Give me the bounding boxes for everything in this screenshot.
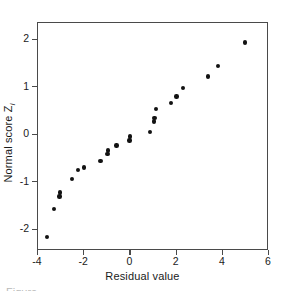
data-point [57,194,61,198]
y-axis-label-subscript: i [8,103,17,105]
x-tick-label: -2 [68,255,98,268]
x-tick-label: -4 [22,255,52,268]
data-point [174,94,178,98]
data-point [152,116,156,120]
y-axis-label-text: Normal score Z [2,105,14,182]
data-point [105,152,109,156]
data-point [216,64,220,68]
scatter-points-layer [38,23,267,249]
data-point [127,138,131,142]
data-point [169,101,173,105]
data-point [154,107,158,111]
x-tick-label: 0 [114,255,144,268]
data-point [206,74,210,78]
x-tick-label: 6 [253,255,283,268]
x-tick-label: 4 [207,255,237,268]
caption-partial: Figure [0,286,285,291]
data-point [98,159,102,163]
y-tick-mark [32,181,37,182]
data-point [128,134,132,138]
data-point [181,86,185,90]
y-tick-mark [32,86,37,87]
y-tick-mark [32,229,37,230]
data-point [106,148,110,152]
data-point [70,177,74,181]
normal-probability-plot-figure: -4-20246 -2-1012 Residual value Normal s… [0,0,285,291]
data-point [76,168,80,172]
data-point [243,40,247,44]
data-point [148,130,152,134]
x-tick-label: 2 [161,255,191,268]
y-tick-mark [32,39,37,40]
x-axis-label: Residual value [0,270,285,282]
data-point [52,207,56,211]
data-point [58,190,62,194]
data-point [82,165,86,169]
data-point [114,143,118,147]
plot-frame [37,22,268,250]
data-point [45,235,49,239]
y-tick-mark [32,134,37,135]
y-axis-label: Normal score Zi [2,29,16,257]
